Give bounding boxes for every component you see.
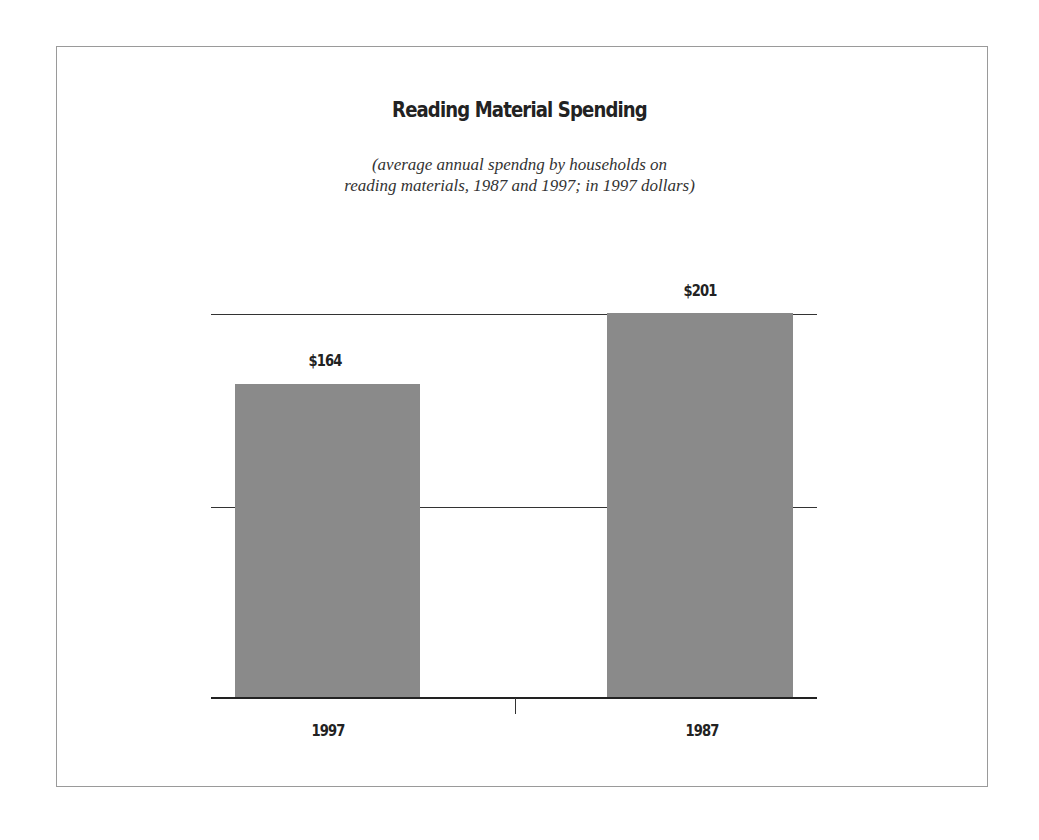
chart-title: Reading Material Spending	[73, 98, 967, 122]
bar-1997	[235, 384, 420, 698]
x-axis-center-tick	[515, 698, 516, 714]
category-label-1987: 1987	[661, 721, 743, 740]
subtitle-line-2: reading materials, 1987 and 1997; in 199…	[0, 175, 1039, 196]
value-label-1987: $201	[659, 281, 741, 300]
x-axis-baseline	[211, 697, 817, 699]
chart-subtitle: (average annual spendng by households on…	[0, 154, 1039, 196]
category-label-1997: 1997	[287, 721, 369, 740]
subtitle-line-1: (average annual spendng by households on	[0, 154, 1039, 175]
bar-1987	[607, 313, 793, 698]
value-label-1997: $164	[284, 351, 366, 370]
